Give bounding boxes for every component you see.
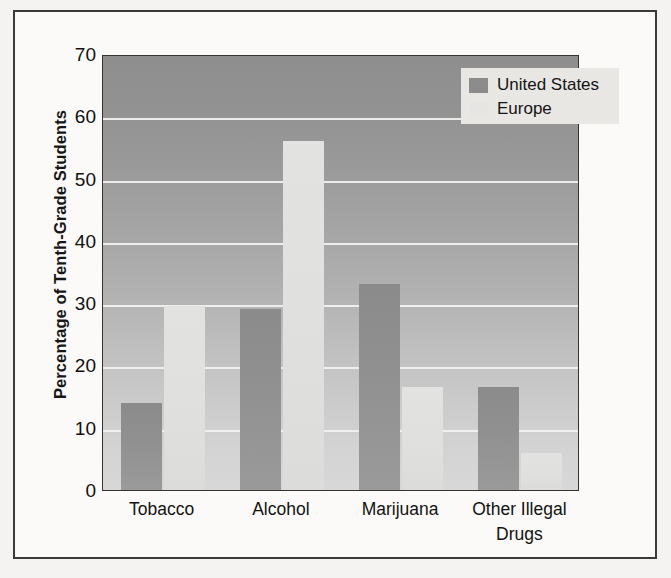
y-axis-tick-70: 70 (40, 44, 96, 66)
bar-marijuana-united-states (359, 284, 400, 490)
legend-label-europe: Europe (497, 99, 552, 119)
gridline-40 (103, 243, 578, 245)
legend: United States Europe (461, 68, 619, 124)
x-axis-label-other-illegal-drugs: Other IllegalDrugs (460, 497, 579, 559)
x-axis-label-tobacco: Tobacco (102, 497, 221, 559)
y-axis-tick-20: 20 (40, 355, 96, 377)
bar-tobacco-united-states (121, 403, 162, 490)
y-axis-tick-30: 30 (40, 293, 96, 315)
screenshot-canvas: Percentage of Tenth-Grade Students 01020… (0, 0, 671, 578)
y-axis-tick-50: 50 (40, 169, 96, 191)
y-axis-tick-60: 60 (40, 106, 96, 128)
bar-other-illegal-drugs-united-states (478, 387, 519, 490)
x-axis-label-line: Drugs (460, 522, 579, 547)
legend-item-united-states: United States (469, 73, 611, 97)
x-axis-label-line: Alcohol (221, 497, 340, 522)
x-axis-label-marijuana: Marijuana (341, 497, 460, 559)
bar-other-illegal-drugs-europe (521, 453, 562, 490)
y-axis-tick-0: 0 (40, 480, 96, 502)
legend-label-united-states: United States (497, 75, 599, 95)
x-axis-tick-labels: TobaccoAlcoholMarijuanaOther IllegalDrug… (102, 497, 579, 559)
bar-chart-figure: Percentage of Tenth-Grade Students 01020… (0, 0, 671, 578)
x-axis-label-alcohol: Alcohol (221, 497, 340, 559)
gridline-50 (103, 181, 578, 183)
y-axis-tick-40: 40 (40, 231, 96, 253)
x-axis-label-line: Other Illegal (460, 497, 579, 522)
bar-tobacco-europe (164, 306, 205, 490)
legend-swatch-united-states (469, 78, 488, 93)
bar-alcohol-europe (283, 141, 324, 490)
bar-alcohol-united-states (240, 309, 281, 490)
x-axis-label-line: Tobacco (102, 497, 221, 522)
bar-marijuana-europe (402, 387, 443, 490)
x-axis-label-line: Marijuana (341, 497, 460, 522)
legend-swatch-europe (469, 102, 488, 117)
y-axis-tick-10: 10 (40, 418, 96, 440)
legend-item-europe: Europe (469, 97, 611, 121)
y-axis-tick-labels: 010203040506070 (34, 55, 96, 491)
